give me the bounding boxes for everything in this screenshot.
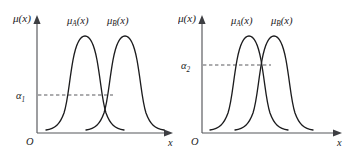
curve-mu-B bbox=[86, 36, 164, 130]
fuzzy-membership-figure: μ(x) x O α1 μA(x) μB(x) μ(x) bbox=[0, 0, 355, 157]
alpha-threshold-label: α1 bbox=[16, 90, 25, 104]
y-axis-label: μ(x) bbox=[12, 12, 31, 25]
curve-mu-B bbox=[235, 36, 313, 130]
chart-panel-left: μ(x) x O α1 μA(x) μB(x) bbox=[0, 0, 177, 157]
alpha-subscript: 2 bbox=[186, 66, 190, 74]
curve-mu-A bbox=[210, 36, 288, 130]
y-axis-arrow-icon bbox=[198, 15, 205, 24]
curve-mu-A bbox=[46, 36, 124, 130]
y-axis-label: μ(x) bbox=[178, 12, 196, 25]
curve-label-mu-A: μA(x) bbox=[230, 15, 253, 28]
x-axis-label: x bbox=[167, 137, 173, 148]
curve-label-mu-B: μB(x) bbox=[106, 15, 129, 28]
x-axis-arrow-icon bbox=[333, 129, 342, 136]
x-axis-arrow-icon bbox=[164, 129, 173, 136]
origin-label: O bbox=[26, 136, 34, 147]
alpha-subscript: 1 bbox=[21, 96, 25, 104]
curve-label-mu-B: μB(x) bbox=[270, 15, 293, 28]
mu-arg: (x) bbox=[241, 15, 253, 27]
alpha-threshold-label: α2 bbox=[181, 60, 190, 74]
curve-label-mu-A: μA(x) bbox=[66, 15, 89, 28]
mu-arg: (x) bbox=[77, 15, 89, 27]
x-axis-label: x bbox=[336, 137, 342, 148]
origin-label: O bbox=[191, 136, 199, 147]
chart-panel-right: μ(x) x O α2 μA(x) μB(x) bbox=[178, 0, 355, 157]
y-axis-arrow-icon bbox=[33, 15, 40, 24]
mu-arg: (x) bbox=[281, 15, 293, 27]
mu-arg: (x) bbox=[117, 15, 129, 27]
